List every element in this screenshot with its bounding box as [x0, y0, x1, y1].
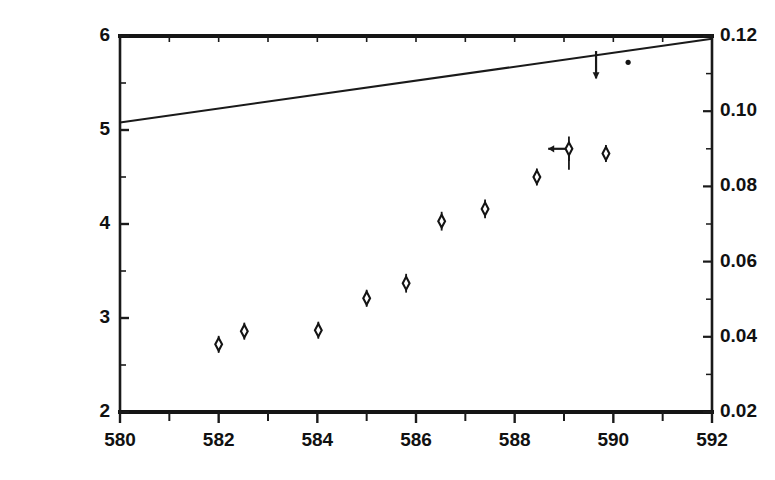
y2-tick-label: 0.08	[720, 174, 757, 195]
x-tick-label: 584	[301, 429, 333, 450]
x-tick-label: 582	[203, 429, 235, 450]
dot-marker-icon	[626, 60, 631, 65]
x-tick-label: 590	[597, 429, 629, 450]
y2-tick-label: 0.12	[720, 24, 757, 45]
chart-container: 580582584586588590592234560.020.040.060.…	[0, 0, 775, 480]
y2-tick-label: 0.10	[720, 99, 757, 120]
y-tick-label: 6	[99, 24, 110, 45]
y-tick-label: 5	[99, 118, 110, 139]
x-tick-label: 592	[696, 429, 728, 450]
y2-tick-label: 0.02	[720, 400, 757, 421]
y-tick-label: 3	[99, 306, 110, 327]
plot-area	[120, 36, 712, 412]
y2-tick-label: 0.06	[720, 250, 757, 271]
y-tick-label: 2	[99, 400, 110, 421]
y2-tick-label: 0.04	[720, 325, 757, 346]
x-tick-label: 580	[104, 429, 136, 450]
upper-limit-point	[626, 60, 631, 65]
x-tick-label: 588	[499, 429, 531, 450]
x-tick-label: 586	[400, 429, 432, 450]
scatter-plot: 580582584586588590592234560.020.040.060.…	[0, 0, 775, 480]
y-tick-label: 4	[99, 212, 110, 233]
